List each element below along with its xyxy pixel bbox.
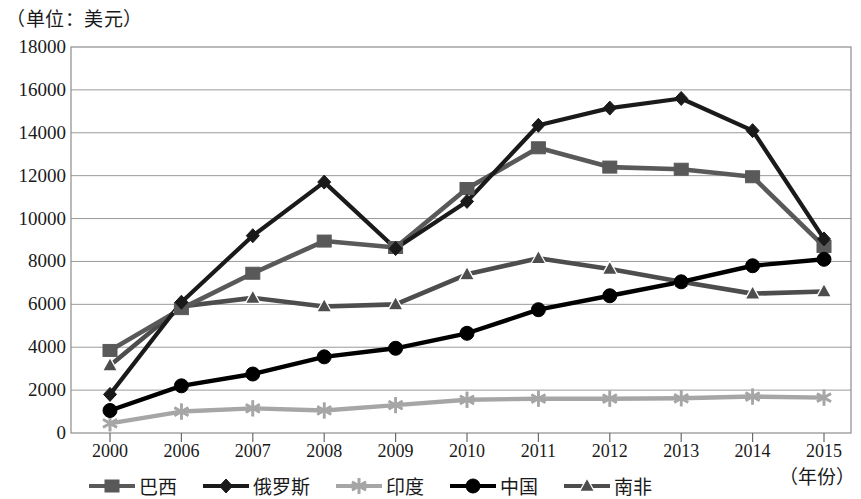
y-axis-tick-label: 8000: [2, 250, 66, 272]
series-line: [110, 148, 824, 351]
data-point-marker: [105, 480, 119, 492]
chart-legend: 巴西俄罗斯印度中国南非: [0, 472, 861, 499]
legend-swatch-triangle-icon: [564, 477, 610, 495]
x-axis-tick-label: 2012: [592, 441, 628, 462]
data-point-marker: [174, 379, 188, 393]
y-axis-tick-label: 14000: [2, 122, 66, 144]
x-axis-tick-label: 2009: [378, 441, 414, 462]
data-point-marker: [817, 252, 831, 266]
triangle-marker-icon: [577, 476, 597, 496]
legend-item-brazil[interactable]: 巴西: [89, 472, 177, 499]
data-point-marker: [746, 171, 760, 183]
data-point-marker: [220, 479, 233, 493]
legend-label: 南非: [614, 472, 652, 499]
data-point-marker: [603, 289, 617, 303]
legend-label: 俄罗斯: [253, 472, 310, 499]
data-point-marker: [466, 479, 480, 493]
x-axis-tick-label: 2014: [735, 441, 771, 462]
x-axis-tick-label: 2011: [521, 441, 556, 462]
y-axis-tick-label: 4000: [2, 336, 66, 358]
y-axis-tick-label: 12000: [2, 165, 66, 187]
legend-swatch-diamond-icon: [203, 477, 249, 495]
y-axis-tick-label: 0: [2, 422, 66, 444]
data-point-marker: [674, 275, 688, 289]
x-axis-tick-label: 2010: [449, 441, 485, 462]
data-point-marker: [603, 101, 616, 115]
legend-item-south-africa[interactable]: 南非: [564, 472, 652, 499]
data-point-marker: [460, 326, 474, 340]
x-axis-tick-label: 2008: [306, 441, 342, 462]
data-point-marker: [389, 341, 403, 355]
y-axis-tick-label: 2000: [2, 379, 66, 401]
plot-frame: [71, 47, 851, 433]
data-point-marker: [603, 161, 617, 173]
x-axis-tick-label: 2006: [163, 441, 199, 462]
asterisk-marker-icon: [349, 476, 369, 496]
series-line: [110, 98, 824, 394]
y-axis-labels: 1800016000140001200010000800060004000200…: [0, 0, 66, 499]
diamond-marker-icon: [216, 476, 236, 496]
circle-marker-icon: [463, 476, 483, 496]
data-point-marker: [317, 350, 331, 364]
x-axis-tick-label: 2013: [663, 441, 699, 462]
legend-swatch-square-icon: [89, 477, 135, 495]
data-point-marker: [246, 367, 260, 381]
y-axis-tick-label: 6000: [2, 293, 66, 315]
data-point-marker: [674, 163, 688, 175]
data-point-marker: [352, 478, 366, 494]
y-axis-tick-label: 16000: [2, 79, 66, 101]
x-axis-tick-label: 2000: [92, 441, 128, 462]
data-point-marker: [746, 259, 760, 273]
data-point-marker: [103, 344, 117, 356]
data-point-marker: [246, 267, 260, 279]
plot-area: [0, 0, 861, 499]
legend-label: 巴西: [139, 472, 177, 499]
legend-swatch-circle-icon: [450, 477, 496, 495]
data-point-marker: [317, 235, 331, 247]
data-point-marker: [675, 91, 688, 105]
line-chart: （单位：美元） 18000160001400012000100008000600…: [0, 0, 861, 499]
legend-item-india[interactable]: 印度: [336, 472, 424, 499]
legend-label: 印度: [386, 472, 424, 499]
data-point-marker: [460, 183, 474, 195]
legend-label: 中国: [500, 472, 538, 499]
x-axis-tick-label: 2015: [806, 441, 842, 462]
data-point-marker: [531, 303, 545, 317]
y-axis-tick-label: 10000: [2, 208, 66, 230]
data-point-marker: [103, 403, 117, 417]
data-point-marker: [580, 478, 595, 492]
square-marker-icon: [102, 476, 122, 496]
x-axis-tick-label: 2007: [235, 441, 271, 462]
data-point-marker: [531, 142, 545, 154]
legend-swatch-asterisk-icon: [336, 477, 382, 495]
legend-item-russia[interactable]: 俄罗斯: [203, 472, 310, 499]
y-axis-tick-label: 18000: [2, 36, 66, 58]
legend-item-china[interactable]: 中国: [450, 472, 538, 499]
